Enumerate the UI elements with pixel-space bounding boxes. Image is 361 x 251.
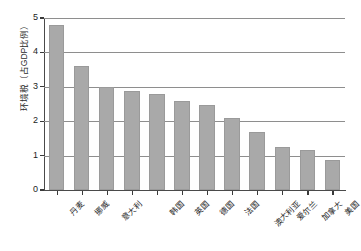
x-tick-mark	[57, 191, 58, 195]
y-tick-label: 2	[12, 115, 38, 125]
y-tick-label: 3	[12, 81, 38, 91]
x-tick-mark	[82, 191, 83, 195]
x-tick-mark	[307, 191, 308, 195]
x-tick-mark	[282, 191, 283, 195]
x-tick-label: 意大利	[119, 198, 144, 223]
x-tick-label: 挪威	[91, 198, 110, 217]
x-tick-mark	[182, 191, 183, 195]
bar	[149, 94, 165, 190]
x-tick-mark	[107, 191, 108, 195]
x-tick-mark	[207, 191, 208, 195]
x-tick-mark	[257, 191, 258, 195]
bar	[275, 147, 291, 190]
x-tick-mark	[132, 191, 133, 195]
y-tick-label: 1	[12, 150, 38, 160]
x-tick-label: 英国	[192, 198, 211, 217]
bar-series	[44, 18, 345, 190]
x-tick-label: 法国	[242, 198, 261, 217]
bar	[49, 25, 65, 190]
bar	[199, 105, 215, 190]
y-tick-label: 4	[12, 46, 38, 56]
x-tick-mark	[232, 191, 233, 195]
bar	[300, 150, 316, 190]
x-tick-mark	[157, 191, 158, 195]
bar	[325, 160, 341, 190]
x-tick-label: 美国	[342, 198, 361, 217]
bar	[99, 87, 115, 190]
x-tick-label: 德国	[217, 198, 236, 217]
x-tick-label: 丹麦	[66, 198, 85, 217]
bar	[249, 132, 265, 190]
bar	[174, 101, 190, 190]
bar	[74, 66, 90, 190]
bar	[124, 91, 140, 190]
x-tick-label: 韩国	[167, 198, 186, 217]
x-tick-label: 加拿大	[319, 198, 344, 223]
y-tick-label: 0	[12, 184, 38, 194]
bar	[224, 118, 240, 190]
y-tick-label: 5	[12, 12, 38, 22]
x-axis-line	[44, 190, 346, 191]
x-tick-mark	[332, 191, 333, 195]
